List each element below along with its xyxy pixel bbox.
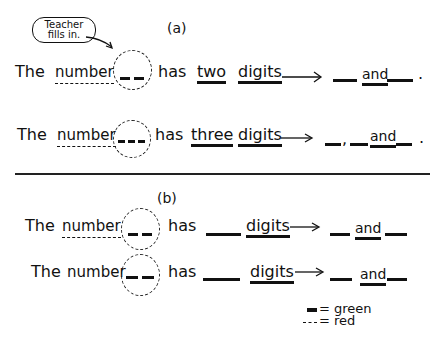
digit-blank xyxy=(118,140,125,143)
word-number: number xyxy=(57,127,116,147)
word-the: The xyxy=(17,127,47,143)
callout-arrow-icon xyxy=(0,0,447,341)
answer-blank xyxy=(387,79,413,82)
word-count: two xyxy=(197,64,226,84)
digit-blank xyxy=(134,77,144,80)
word-and: and xyxy=(355,220,381,240)
comma: , xyxy=(342,131,347,147)
word-digits: digits xyxy=(250,264,294,284)
answer-blank xyxy=(330,233,350,236)
section-divider xyxy=(15,173,430,175)
word-the: The xyxy=(15,64,45,80)
section-a-label: (a) xyxy=(167,20,187,36)
period: . xyxy=(418,66,423,82)
word-digits: digits xyxy=(246,218,290,238)
solid-line-swatch-icon xyxy=(307,308,317,312)
digit-blank xyxy=(138,140,145,143)
word-digits: digits xyxy=(238,64,282,84)
word-and: and xyxy=(370,128,396,148)
digit-blank xyxy=(128,140,135,143)
word-number: number xyxy=(55,64,114,84)
digit-blank xyxy=(128,233,138,236)
word-has: has xyxy=(168,264,196,280)
word-digits: digits xyxy=(238,127,282,147)
digit-circle xyxy=(113,50,152,90)
digit-circle xyxy=(121,208,160,250)
word-has: has xyxy=(158,64,186,80)
word-and: and xyxy=(360,266,386,286)
digit-blank xyxy=(142,233,152,236)
section-b-label: (b) xyxy=(157,190,177,206)
dashed-line-swatch-icon xyxy=(303,322,317,323)
digit-blank xyxy=(120,77,130,80)
word-has: has xyxy=(155,127,183,143)
answer-blank xyxy=(396,143,412,146)
word-the: The xyxy=(31,264,61,280)
word-number: number xyxy=(62,218,121,238)
word-has: has xyxy=(168,218,196,234)
digit-blank xyxy=(142,276,154,279)
answer-blank xyxy=(325,143,341,146)
answer-blank xyxy=(330,278,352,281)
count-blank xyxy=(206,233,241,236)
legend-red: = red xyxy=(319,313,355,328)
digit-blank xyxy=(126,276,138,279)
answer-blank xyxy=(350,143,368,146)
answer-blank xyxy=(387,278,407,281)
word-and: and xyxy=(362,66,388,86)
digit-circle xyxy=(113,120,151,158)
word-the: The xyxy=(25,218,55,234)
answer-blank xyxy=(385,233,407,236)
digit-circle xyxy=(121,254,160,296)
answer-blank xyxy=(333,79,357,82)
word-number: number xyxy=(67,264,126,280)
word-count: three xyxy=(191,127,233,147)
period: . xyxy=(419,130,424,146)
count-blank xyxy=(203,278,240,281)
